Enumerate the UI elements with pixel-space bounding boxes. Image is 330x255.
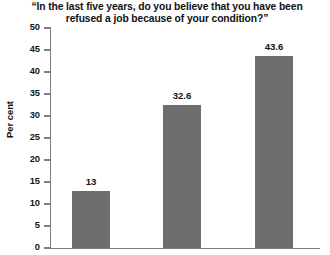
- plot-area: 1332.643.6: [50, 28, 320, 248]
- y-axis-tick-label: 25: [14, 133, 40, 142]
- y-axis-tick-label: 10: [14, 199, 40, 208]
- y-axis-tick-label: 0: [14, 243, 40, 252]
- bar-value-label: 32.6: [153, 91, 211, 101]
- y-axis-tick-label: 50: [14, 23, 40, 32]
- bar-value-label: 43.6: [245, 42, 303, 52]
- y-axis-tick-label: 40: [14, 67, 40, 76]
- y-axis-tick-label: 30: [14, 111, 40, 120]
- chart-title: “In the last five years, do you believe …: [22, 1, 312, 25]
- y-axis-tick-label: 15: [14, 177, 40, 186]
- bar: [163, 105, 201, 248]
- bar-chart: “In the last five years, do you believe …: [0, 0, 330, 255]
- y-axis-tick-label: 35: [14, 89, 40, 98]
- bar: [255, 56, 293, 248]
- y-axis-title: Per cent: [4, 85, 15, 155]
- y-axis-tick-label: 45: [14, 45, 40, 54]
- chart-title-line-2: refused a job because of your condition?…: [22, 13, 312, 25]
- y-axis-tick-label: 5: [14, 221, 40, 230]
- bar: [72, 191, 110, 248]
- bar-value-label: 13: [62, 177, 120, 187]
- chart-title-line-1: “In the last five years, do you believe …: [22, 1, 312, 13]
- y-axis-tick-label: 20: [14, 155, 40, 164]
